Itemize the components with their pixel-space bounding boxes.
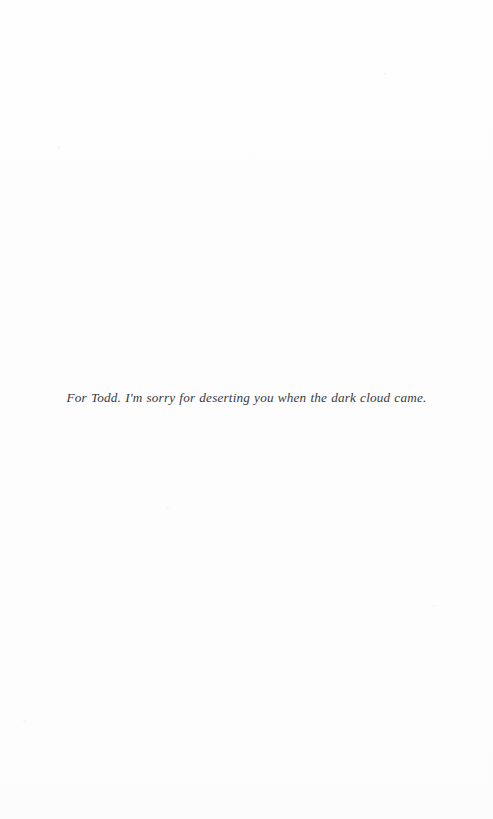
paper-texture [0, 0, 493, 819]
dedication-block: For Todd. I'm sorry for deserting you wh… [0, 388, 493, 406]
book-page: For Todd. I'm sorry for deserting you wh… [0, 0, 493, 819]
dedication-text: For Todd. I'm sorry for deserting you wh… [67, 389, 427, 406]
